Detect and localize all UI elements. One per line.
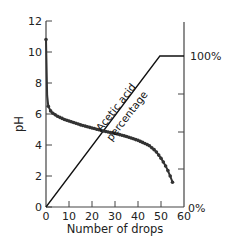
y2-label-0: 0% <box>188 202 205 215</box>
y2-label-100: 100% <box>190 50 221 63</box>
y-tick-label: 8 <box>35 77 42 90</box>
titration-chart: 024681012 0102030405060 100% 0% Acetic a… <box>0 0 229 248</box>
chart-canvas: 024681012 0102030405060 100% 0% Acetic a… <box>0 0 229 248</box>
x-axis-label: Number of drops <box>67 222 164 236</box>
x-tick-label: 0 <box>43 210 50 223</box>
y-tick-label: 0 <box>35 201 42 214</box>
y-tick-label: 2 <box>35 170 42 183</box>
y-tick-label: 6 <box>35 108 42 121</box>
x-ticks: 0102030405060 <box>43 201 192 223</box>
y-tick-label: 10 <box>28 46 42 59</box>
y-axis-label: pH <box>12 116 26 132</box>
y2-ticks <box>178 94 184 169</box>
y-tick-label: 4 <box>35 139 42 152</box>
y-tick-label: 12 <box>28 15 42 28</box>
y-ticks: 024681012 <box>28 15 52 214</box>
